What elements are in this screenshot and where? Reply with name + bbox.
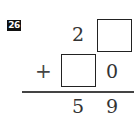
row1-ones-answer-box[interactable] [97, 19, 132, 52]
row2-tens-answer-box[interactable] [61, 54, 96, 87]
problem-number-badge: 26 [7, 20, 21, 31]
row1-tens-digit: 2 [71, 24, 85, 44]
result-ones-digit: 9 [105, 96, 119, 116]
sum-line [22, 91, 134, 93]
result-tens-digit: 5 [71, 96, 85, 116]
row2-ones-digit: 0 [105, 61, 119, 81]
plus-operator: + [35, 61, 49, 81]
